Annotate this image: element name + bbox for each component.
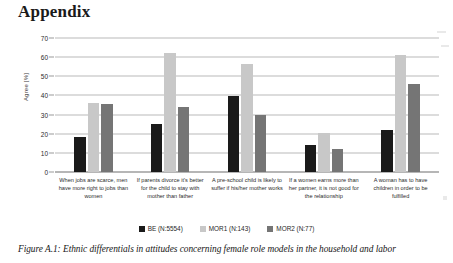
x-axis-category-label: When jobs are scarce, men have more righ… (55, 176, 132, 201)
bar (164, 53, 176, 172)
bar-group (362, 38, 439, 172)
x-axis-category-labels: When jobs are scarce, men have more righ… (55, 176, 439, 201)
page-title: Appendix (18, 2, 90, 22)
y-axis-tick-mark (49, 114, 54, 115)
x-axis-category-label: If parents divorce it's better for the c… (132, 176, 209, 201)
legend-label: MOR1 (N:143) (209, 225, 251, 232)
bar-groups (55, 38, 439, 172)
y-axis-tick-label: 0 (26, 169, 48, 176)
bar (408, 84, 420, 172)
legend-swatch-icon (139, 226, 145, 232)
legend-item: MOR2 (N:77) (267, 225, 314, 232)
legend-swatch-icon (200, 226, 206, 232)
x-axis-category-label: A pre-school child is likely to suffer i… (209, 176, 286, 201)
bar (255, 115, 267, 172)
bar (88, 103, 100, 172)
y-axis-ticks: 010203040506070 (26, 38, 48, 172)
y-axis-tick-mark (49, 133, 54, 134)
bar-group (55, 38, 132, 172)
scan-artifact (443, 196, 447, 200)
bar (395, 55, 407, 172)
bar (332, 149, 344, 172)
y-axis-tick-label: 50 (26, 73, 48, 80)
bar-group (209, 38, 286, 172)
bar (74, 137, 86, 172)
figure-appendix-a1: Appendix Agree [%] 010203040506070 When … (0, 0, 453, 263)
chart-legend: BE (N:5554)MOR1 (N:143)MOR2 (N:77) (0, 225, 453, 232)
bar (178, 107, 190, 172)
y-axis-tick-label: 30 (26, 111, 48, 118)
bar-group (285, 38, 362, 172)
y-axis-tick-mark (49, 172, 54, 173)
x-axis-category-label: If a women earns more than her partner, … (285, 176, 362, 201)
scan-artifact (437, 31, 446, 33)
y-axis-tick-label: 70 (26, 35, 48, 42)
y-axis-tick-mark (49, 152, 54, 153)
y-axis-tick-mark (49, 38, 54, 39)
y-axis-tick-label: 40 (26, 92, 48, 99)
legend-swatch-icon (267, 226, 273, 232)
bar-group (132, 38, 209, 172)
y-axis-tick-mark (49, 57, 54, 58)
y-axis-tick-label: 60 (26, 54, 48, 61)
bar (241, 64, 253, 172)
legend-item: MOR1 (N:143) (200, 225, 251, 232)
bar (381, 130, 393, 172)
plot-area (55, 38, 439, 172)
bar (318, 133, 330, 172)
legend-item: BE (N:5554) (139, 225, 183, 232)
legend-label: MOR2 (N:77) (276, 225, 314, 232)
bar (151, 124, 163, 172)
y-axis-tick-label: 20 (26, 130, 48, 137)
figure-caption: Figure A.1: Ethnic differentials in atti… (18, 243, 442, 255)
y-axis-tick-mark (49, 76, 54, 77)
bar (228, 96, 240, 172)
bar-chart: Agree [%] 010203040506070 (14, 38, 439, 178)
scan-artifact (441, 45, 449, 47)
y-axis-tick-label: 10 (26, 149, 48, 156)
legend-label: BE (N:5554) (148, 225, 183, 232)
y-axis-tick-mark (49, 95, 54, 96)
bar (101, 104, 113, 172)
x-axis-category-label: A woman has to have children in order to… (362, 176, 439, 201)
bar (305, 145, 317, 172)
